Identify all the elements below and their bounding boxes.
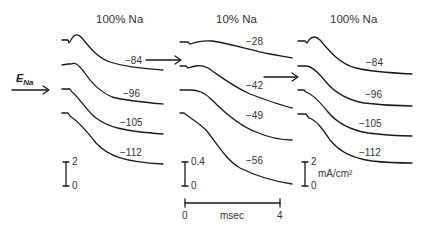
trace-p3-2 xyxy=(298,66,412,106)
p2-scale-bottom: 0 xyxy=(191,180,197,191)
panel-1-title: 100% Na xyxy=(96,13,143,25)
p1-scale-bottom: 0 xyxy=(72,180,78,191)
p1-label-3: −105 xyxy=(120,117,143,128)
trace-p2-2 xyxy=(180,66,292,108)
p1-label-2: −96 xyxy=(123,88,140,99)
p1-label-4: −112 xyxy=(120,147,142,158)
trace-p2-1 xyxy=(180,41,292,58)
trace-p2-4 xyxy=(180,113,292,184)
p3-label-3: −105 xyxy=(359,118,382,129)
trace-p3-3 xyxy=(298,90,412,136)
trace-p3-1 xyxy=(298,37,412,74)
p3-label-1: −84 xyxy=(366,57,383,68)
p3-label-4: −112 xyxy=(359,147,381,158)
ena-label: ENa xyxy=(16,72,34,87)
p2-scale-top: 0.4 xyxy=(191,156,205,167)
panel-2-title: 10% Na xyxy=(216,13,257,25)
traces-svg xyxy=(0,0,425,230)
panel-3-title: 100% Na xyxy=(330,13,377,25)
figure: 100% Na 10% Na 100% Na ENa −84 −96 −105 … xyxy=(0,0,425,230)
time-unit: msec xyxy=(220,210,244,221)
p2-label-4: −56 xyxy=(246,155,263,166)
p3-label-2: −96 xyxy=(365,89,382,100)
p1-label-1: −84 xyxy=(125,55,142,66)
p2-label-1: −28 xyxy=(246,36,263,47)
time-end: 4 xyxy=(277,210,283,221)
p3-scale-bottom: 0 xyxy=(311,180,317,191)
p3-unit: mA/cm² xyxy=(318,168,352,179)
p2-label-2: −42 xyxy=(246,80,263,91)
trace-p2-3 xyxy=(180,90,292,140)
trace-p1-3 xyxy=(62,89,163,134)
p1-scale-top: 2 xyxy=(72,156,78,167)
p3-scale-top: 2 xyxy=(311,156,317,167)
time-start: 0 xyxy=(182,210,188,221)
p2-label-3: −49 xyxy=(246,110,263,121)
